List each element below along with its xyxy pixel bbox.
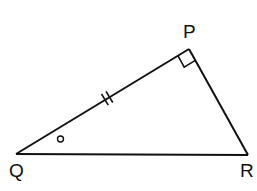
side-pr	[189, 49, 248, 155]
vertex-label-p: P	[183, 22, 196, 41]
vertex-label-r: R	[240, 161, 254, 180]
side-pq	[16, 49, 189, 154]
triangle-diagram	[0, 0, 257, 191]
angle-marker-q	[58, 136, 64, 142]
vertex-label-q: Q	[9, 161, 24, 180]
side-qr	[16, 154, 248, 155]
